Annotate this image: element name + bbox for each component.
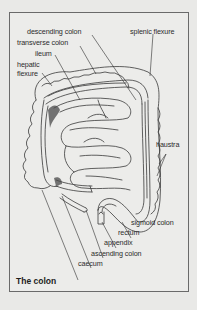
label-hepatic-flexure-line2: flexure — [17, 70, 38, 78]
colon-outer-outline — [35, 67, 161, 232]
label-rectum: rectum — [118, 229, 139, 237]
label-sigmoid-colon: sigmoid colon — [131, 219, 174, 227]
label-splenic-flexure: splenic flexure — [130, 28, 174, 36]
label-caecum: caecum — [78, 260, 103, 268]
label-hepatic-flexure-line1: hepatic — [17, 61, 39, 69]
label-ascending-colon: ascending colon — [91, 250, 141, 258]
label-descending-colon: descending colon — [27, 28, 81, 36]
label-transverse-colon: transverse colon — [17, 39, 68, 47]
figure-title: The colon — [16, 276, 56, 286]
label-ileum: ileum — [35, 50, 52, 58]
label-haustra: haustra — [156, 141, 179, 149]
label-appendix: appendix — [104, 239, 132, 247]
